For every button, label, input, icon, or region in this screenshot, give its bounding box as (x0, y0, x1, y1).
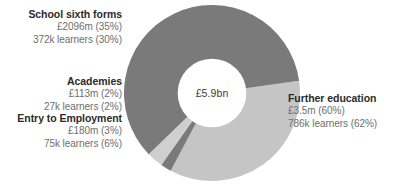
chart-label-school-sixth-forms-learners: 372k learners (30%) (28, 34, 122, 47)
chart-label-school-sixth-forms-title: School sixth forms (28, 8, 122, 21)
chart-label-further-education-amount: £3.5m (60%) (288, 105, 377, 118)
chart-page: £5.9bn School sixth forms £2096m (35%) 3… (0, 0, 400, 187)
chart-label-school-sixth-forms: School sixth forms £2096m (35%) 372k lea… (28, 8, 122, 47)
chart-label-academies-amount: £113m (2%) (44, 88, 122, 101)
chart-label-entry-to-employment: Entry to Employment £180m (3%) 75k learn… (17, 112, 122, 151)
chart-label-academies-title: Academies (44, 75, 122, 88)
donut-chart-svg (124, 5, 300, 181)
chart-label-school-sixth-forms-amount: £2096m (35%) (28, 21, 122, 34)
chart-label-entry-to-employment-learners: 75k learners (6%) (17, 138, 122, 151)
chart-label-entry-to-employment-amount: £180m (3%) (17, 125, 122, 138)
chart-label-entry-to-employment-title: Entry to Employment (17, 112, 122, 125)
chart-label-further-education: Further education £3.5m (60%) 786k learn… (288, 92, 377, 131)
donut-hole (178, 59, 247, 128)
chart-label-further-education-learners: 786k learners (62%) (288, 118, 377, 131)
chart-label-academies: Academies £113m (2%) 27k learners (2%) (44, 75, 122, 114)
donut-chart: £5.9bn (124, 5, 300, 181)
chart-label-further-education-title: Further education (288, 92, 377, 105)
